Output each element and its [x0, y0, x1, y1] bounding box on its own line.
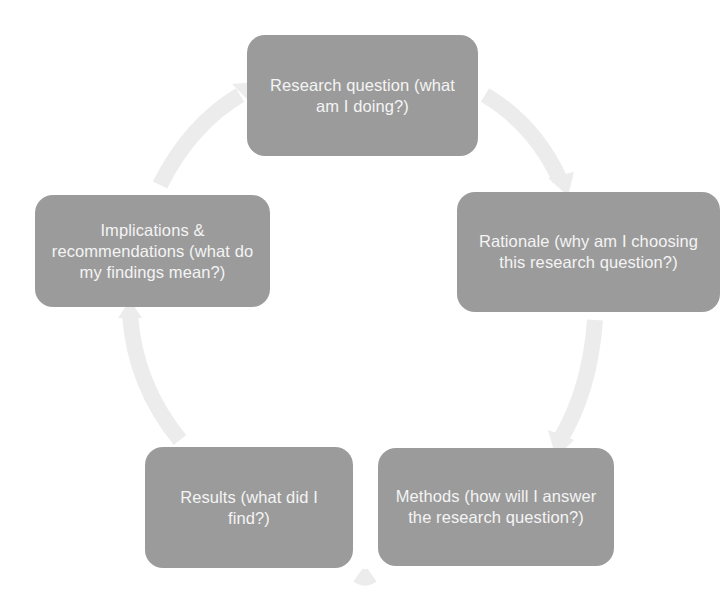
node-results: Results (what did I find?) [145, 447, 353, 568]
node-results-label: Results (what did I find?) [159, 487, 339, 529]
node-methods: Methods (how will I answer the research … [378, 448, 614, 566]
node-research-question: Research question (what am I doing?) [247, 35, 478, 156]
arrow-results-to-implications [130, 315, 180, 440]
node-research-question-label: Research question (what am I doing?) [261, 75, 464, 117]
arrow-rationale-to-methods [560, 320, 595, 440]
node-rationale-label: Rationale (why am I choosing this resear… [471, 231, 706, 273]
node-rationale: Rationale (why am I choosing this resear… [457, 192, 720, 312]
node-implications-label: Implications & recommendations (what do … [49, 220, 256, 283]
arrow-research-to-rationale [485, 95, 560, 180]
arrow-methods-to-results [358, 575, 372, 578]
node-methods-label: Methods (how will I answer the research … [392, 486, 600, 528]
arrow-implications-to-research [160, 95, 240, 185]
node-implications: Implications & recommendations (what do … [35, 195, 270, 307]
